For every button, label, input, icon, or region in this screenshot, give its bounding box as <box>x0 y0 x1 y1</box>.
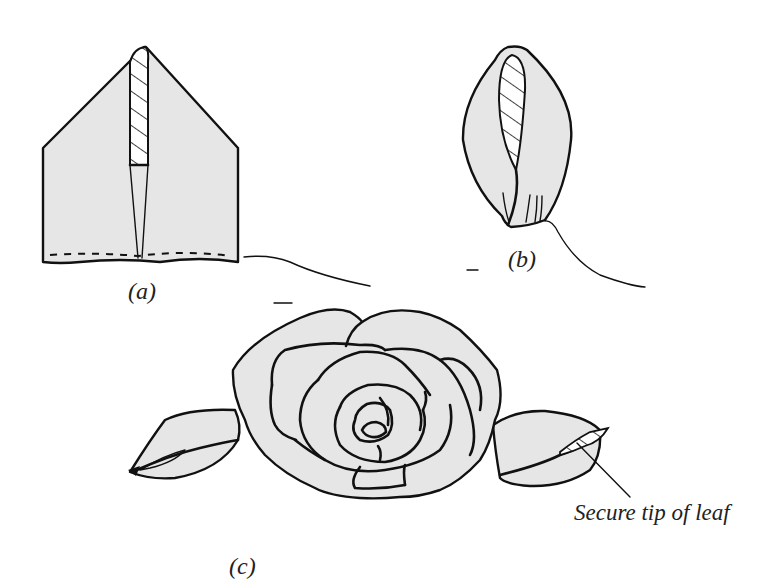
label-panel-c: (c) <box>229 553 256 580</box>
label-panel-b: (b) <box>508 246 536 273</box>
thread-tail-a <box>244 256 370 286</box>
hatched-strip-a <box>130 47 148 165</box>
right-leaf <box>493 411 600 486</box>
thread-tail-b <box>545 221 645 287</box>
annotation-secure-tip: Secure tip of leaf <box>574 500 730 526</box>
panel-a-folded-fabric <box>43 47 370 303</box>
panel-b-gathered-leaf <box>463 46 645 287</box>
panel-c-rose <box>128 310 630 499</box>
label-panel-a: (a) <box>128 278 156 305</box>
